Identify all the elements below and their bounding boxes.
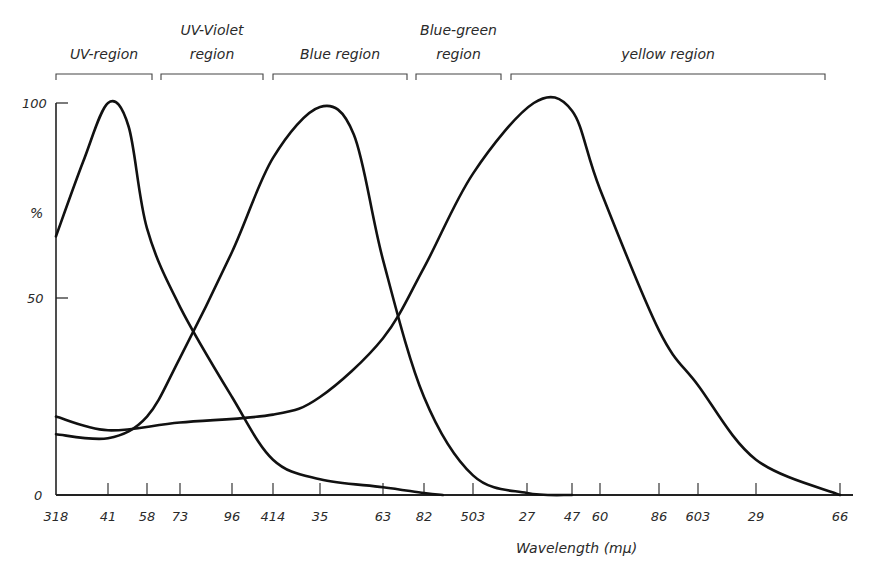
region-label: region bbox=[190, 46, 235, 62]
region-label: yellow region bbox=[620, 46, 715, 62]
region-label: Blue-green bbox=[420, 22, 497, 38]
y-axis-title: % bbox=[30, 205, 43, 221]
x-tick-label: 41 bbox=[100, 509, 117, 524]
region-label: UV-Violet bbox=[180, 22, 244, 38]
x-tick-label: 414 bbox=[261, 509, 286, 524]
y-tick-label-0: 0 bbox=[34, 488, 42, 503]
x-tick-label: 27 bbox=[519, 509, 536, 524]
x-tick-label: 35 bbox=[312, 509, 329, 524]
y-tick-label-50: 50 bbox=[27, 291, 44, 306]
x-tick-label: 58 bbox=[139, 509, 156, 524]
region-brackets: UV-regionUV-VioletregionBlue regionBlue-… bbox=[56, 22, 825, 80]
x-tick-label: 66 bbox=[832, 509, 849, 524]
curves bbox=[56, 97, 840, 495]
y-axis: 100 50 0 % bbox=[22, 96, 68, 503]
region-bracket: Blue-greenregion bbox=[416, 22, 501, 80]
y-tick-label-100: 100 bbox=[22, 96, 47, 111]
x-tick-label: 82 bbox=[416, 509, 433, 524]
region-label: Blue region bbox=[300, 46, 380, 62]
x-axis-title: Wavelength (mμ) bbox=[516, 540, 637, 556]
curve-series-2 bbox=[56, 106, 572, 495]
x-tick-label: 73 bbox=[172, 509, 189, 524]
x-tick-label: 29 bbox=[748, 509, 765, 524]
region-bracket: Blue region bbox=[273, 46, 407, 80]
x-tick-label: 318 bbox=[44, 509, 69, 524]
spectral-sensitivity-chart: UV-regionUV-VioletregionBlue regionBlue-… bbox=[0, 0, 870, 570]
x-tick-label: 96 bbox=[224, 509, 241, 524]
x-tick-label: 86 bbox=[651, 509, 668, 524]
region-label: region bbox=[436, 46, 481, 62]
x-tick-label: 60 bbox=[592, 509, 609, 524]
region-bracket: UV-region bbox=[56, 46, 152, 80]
x-tick-label: 63 bbox=[375, 509, 392, 524]
x-tick-label: 47 bbox=[564, 509, 581, 524]
region-bracket: yellow region bbox=[511, 46, 825, 80]
x-tick-label: 603 bbox=[686, 509, 711, 524]
region-label: UV-region bbox=[70, 46, 138, 62]
x-tick-label: 503 bbox=[461, 509, 486, 524]
x-axis: 31841587396414356382503274760866032966 W… bbox=[44, 483, 853, 556]
region-bracket: UV-Violetregion bbox=[161, 22, 263, 80]
x-ticks: 31841587396414356382503274760866032966 bbox=[44, 483, 849, 524]
